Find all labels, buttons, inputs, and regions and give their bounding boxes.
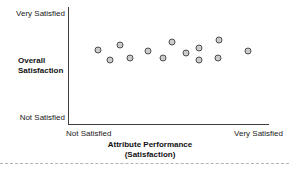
- bottom-divider: [0, 163, 289, 164]
- y-axis-title-line1: Overall: [18, 56, 63, 66]
- y-axis-title-line2: Satisfaction: [18, 66, 63, 76]
- y-axis-max-label: Very Satisfied: [16, 9, 65, 18]
- satisfaction-scatter-chart: Very Satisfied Overall Satisfaction Not …: [0, 0, 289, 171]
- data-point: [95, 47, 102, 54]
- x-axis-title-line1: Attribute Performance: [60, 140, 240, 150]
- x-axis-max-label: Very Satisfied: [234, 129, 283, 138]
- data-point: [107, 57, 114, 64]
- data-point: [160, 54, 167, 61]
- x-axis-title: Attribute Performance (Satisfaction): [60, 140, 240, 160]
- data-point: [215, 55, 222, 62]
- x-axis-title-line2: (Satisfaction): [60, 150, 240, 160]
- x-axis-min-label: Not Satisfied: [66, 129, 111, 138]
- data-point: [145, 47, 152, 54]
- data-point: [168, 39, 175, 46]
- data-point: [127, 55, 134, 62]
- data-point: [245, 47, 252, 54]
- data-point: [196, 44, 203, 51]
- data-point: [216, 36, 223, 43]
- plot-area: [68, 7, 269, 125]
- data-point: [183, 50, 190, 57]
- y-axis-min-label: Not Satisfied: [20, 113, 65, 122]
- data-point: [117, 42, 124, 49]
- y-axis-title: Overall Satisfaction: [18, 56, 63, 76]
- data-point: [196, 57, 203, 64]
